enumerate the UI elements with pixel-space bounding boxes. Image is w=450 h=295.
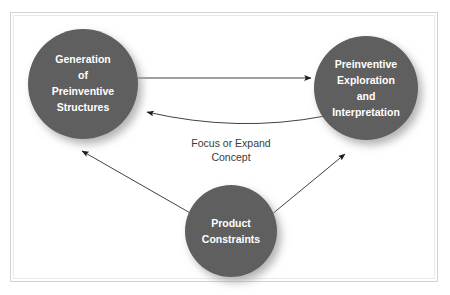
arrow-constraints-to-generation	[82, 151, 192, 214]
node-label-constraints-line-1: Product	[211, 217, 251, 229]
edge-label-focus-or-expand-line-1: Focus or Expand	[191, 137, 271, 149]
diagram-svg: Generation of Preinventive Structures Pr…	[0, 0, 450, 295]
node-label-generation-line-1: Generation	[55, 53, 110, 65]
node-generation-of-preinventive-structures[interactable]: Generation of Preinventive Structures	[28, 29, 138, 139]
node-circle-exploration[interactable]	[314, 36, 418, 140]
arrow-exploration-to-generation	[147, 112, 325, 124]
diagram-canvas: Generation of Preinventive Structures Pr…	[0, 0, 450, 295]
node-label-constraints-line-2: Constraints	[202, 233, 261, 245]
node-label-generation-line-3: Preinventive	[52, 85, 115, 97]
node-label-generation-line-2: of	[78, 69, 88, 81]
node-circle-constraints[interactable]	[185, 185, 277, 277]
node-product-constraints[interactable]: Product Constraints	[185, 185, 277, 277]
node-label-generation-line-4: Structures	[57, 101, 110, 113]
node-label-exploration-line-2: Exploration	[337, 74, 395, 86]
arrow-constraints-to-exploration	[271, 154, 345, 215]
node-preinventive-exploration-and-interpretation[interactable]: Preinventive Exploration and Interpretat…	[314, 36, 418, 140]
edge-label-layer: Focus or Expand Concept	[191, 137, 271, 163]
edge-label-focus-or-expand-line-2: Concept	[211, 151, 250, 163]
node-label-exploration-line-4: Interpretation	[332, 106, 400, 118]
node-label-exploration-line-3: and	[357, 90, 376, 102]
node-label-exploration-line-1: Preinventive	[335, 58, 398, 70]
